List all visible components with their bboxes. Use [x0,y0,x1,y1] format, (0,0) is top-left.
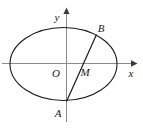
point-label-a: A [54,107,62,119]
origin-label: O [52,67,60,79]
ellipse-chord-diagram: y x O A B M [0,0,143,129]
x-axis-arrow-icon [131,60,138,66]
point-label-b: B [98,22,105,34]
y-axis-label: y [54,11,60,23]
geometry-figure: y x O A B M [0,0,143,129]
point-label-m: M [79,66,90,78]
x-axis-label: x [128,67,134,79]
y-axis-arrow-icon [63,8,69,15]
